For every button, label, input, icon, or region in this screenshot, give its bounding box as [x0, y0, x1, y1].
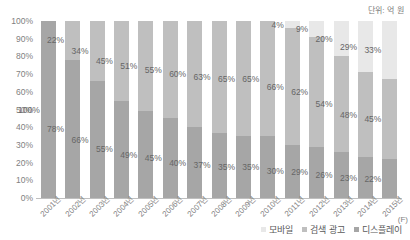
chart-legend: 모바일검색 광고디스플레이 — [261, 223, 402, 236]
bar-value-label: 55% — [145, 65, 162, 74]
bar-column[interactable]: 34%66% — [85, 21, 109, 198]
bar-value-label: 22% — [47, 36, 64, 45]
bar-stack: 45%55% — [114, 21, 129, 198]
bar-column[interactable]: 45%55% — [109, 21, 133, 198]
bar-segment-search[interactable]: 62% — [309, 37, 324, 147]
bar-value-label: 66% — [267, 82, 284, 91]
x-axis-tick-cell: 2004년 — [109, 199, 133, 233]
bar-value-label: 30% — [267, 167, 284, 176]
bar-stack: 33%45%22% — [382, 21, 397, 198]
legend-swatch-icon — [302, 227, 307, 232]
y-axis-tick: 70% — [0, 69, 33, 79]
legend-item-mobile[interactable]: 모바일 — [261, 223, 293, 236]
y-axis-tick: 100% — [0, 16, 33, 26]
y-axis-tick: 80% — [0, 51, 33, 61]
bar-segment-search[interactable]: 34% — [90, 21, 105, 81]
legend-label: 검색 광고 — [310, 223, 345, 236]
bar-value-label: 48% — [340, 111, 357, 120]
y-axis-tick: 0% — [0, 193, 33, 203]
plot-area: 100%22%78%34%66%45%55%51%49%55%45%60%40%… — [36, 21, 402, 198]
x-axis-tick-cell: 2002년 — [60, 199, 84, 233]
y-axis-tick: 90% — [0, 34, 33, 44]
bar-segment-display[interactable]: 100% — [41, 21, 56, 198]
legend-label: 디스플레이 — [362, 223, 402, 236]
bar-value-label: 78% — [47, 125, 64, 134]
bar-value-label: 26% — [316, 171, 333, 180]
unit-caption: 단위: 억 원 — [368, 4, 404, 15]
x-axis-tick-cell: 2007년 — [182, 199, 206, 233]
bar-column[interactable]: 60%40% — [182, 21, 206, 198]
bar-value-label: 45% — [364, 115, 381, 124]
bar-value-label: 4% — [271, 20, 283, 29]
bar-value-label: 35% — [242, 163, 259, 172]
bar-value-label: 9% — [296, 25, 308, 34]
legend-label: 모바일 — [269, 223, 293, 236]
bar-value-label: 66% — [72, 135, 89, 144]
bar-segment-mobile[interactable]: 33% — [382, 21, 397, 79]
bar-column[interactable]: 55%45% — [158, 21, 182, 198]
bar-value-label: 40% — [169, 158, 186, 167]
x-axis-tick-cell: 2008년 — [207, 199, 231, 233]
bar-value-label: 37% — [194, 161, 211, 170]
bar-value-label: 65% — [218, 74, 235, 83]
bar-column[interactable]: 33%45%22% — [378, 21, 402, 198]
bar-value-label: 54% — [316, 100, 333, 109]
bar-value-label: 45% — [145, 154, 162, 163]
x-axis-tick-cell: 2009년 — [231, 199, 255, 233]
y-axis-tick: 40% — [0, 122, 33, 132]
y-axis-tick: 20% — [0, 158, 33, 168]
y-axis-tick: 60% — [0, 87, 33, 97]
bar-segment-search[interactable]: 54% — [334, 56, 349, 152]
x-axis-tick-cell: 2001년 — [36, 199, 60, 233]
bar-value-label: 33% — [364, 46, 381, 55]
bar-stack: 51%49% — [138, 21, 153, 198]
bar-value-label: 22% — [364, 174, 381, 183]
y-axis-tick: 10% — [0, 175, 33, 185]
bar-column[interactable]: 100% — [36, 21, 60, 198]
stacked-bar-chart: 단위: 억 원 100%90%80%70%60%50%40%30%20%10%0… — [0, 0, 410, 240]
bar-segment-display[interactable]: 78% — [65, 60, 80, 198]
bar-value-label: 65% — [242, 74, 259, 83]
bar-series-group: 100%22%78%34%66%45%55%51%49%55%45%60%40%… — [36, 21, 402, 198]
legend-swatch-icon — [354, 227, 359, 232]
bar-value-label: 55% — [96, 145, 113, 154]
bar-value-label: 23% — [340, 173, 357, 182]
bar-value-label: 63% — [194, 73, 211, 82]
x-axis-tick-cell: 2003년 — [85, 199, 109, 233]
bar-value-label: 29% — [340, 42, 357, 51]
bar-value-label: 100% — [18, 105, 40, 114]
bar-value-label: 29% — [291, 168, 308, 177]
bar-value-label: 49% — [120, 150, 137, 159]
bar-stack: 55%45% — [163, 21, 178, 198]
bar-value-label: 45% — [96, 57, 113, 66]
bar-value-label: 51% — [120, 62, 137, 71]
bar-stack: 100% — [41, 21, 56, 198]
legend-item-search[interactable]: 검색 광고 — [302, 223, 345, 236]
bar-segment-display[interactable]: 66% — [90, 81, 105, 198]
x-axis-tick-cell: 2005년 — [134, 199, 158, 233]
bar-value-label: 35% — [218, 163, 235, 172]
bar-segment-display[interactable]: 22% — [382, 159, 397, 198]
bar-stack: 60%40% — [187, 21, 202, 198]
y-axis-tick: 30% — [0, 140, 33, 150]
bar-segment-search[interactable]: 45% — [382, 79, 397, 159]
bar-value-label: 20% — [316, 34, 333, 43]
bar-stack: 34%66% — [90, 21, 105, 198]
x-axis-tick-cell: 2006년 — [158, 199, 182, 233]
bar-value-label: 62% — [291, 88, 308, 97]
bar-value-label: 60% — [169, 70, 186, 79]
legend-item-display[interactable]: 디스플레이 — [354, 223, 402, 236]
bar-column[interactable]: 51%49% — [134, 21, 158, 198]
bar-segment-search[interactable]: 65% — [260, 21, 275, 136]
legend-swatch-icon — [261, 227, 266, 232]
bar-value-label: 34% — [72, 47, 89, 56]
